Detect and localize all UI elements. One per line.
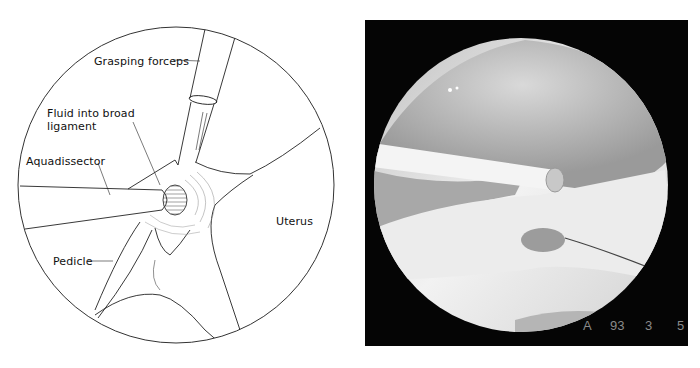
laparoscopic-photo: A 93 3 5 — [365, 20, 688, 346]
overlay-num-3: 5 — [677, 318, 684, 333]
label-fluid-into-broad: Fluid into broad — [47, 107, 135, 120]
label-ligament: ligament — [47, 120, 96, 133]
illustration-panel: Grasping forceps Fluid into broad ligame… — [0, 0, 350, 368]
overlay-num-1: 93 — [610, 318, 624, 333]
label-grasping-forceps: Grasping forceps — [94, 55, 189, 68]
overlay-num-2: 3 — [645, 318, 652, 333]
label-uterus: Uterus — [276, 215, 313, 228]
photo-scene — [365, 20, 688, 346]
overlay-letter: A — [583, 318, 592, 333]
label-pedicle: Pedicle — [53, 255, 93, 268]
label-aquadissector: Aquadissector — [26, 155, 105, 168]
